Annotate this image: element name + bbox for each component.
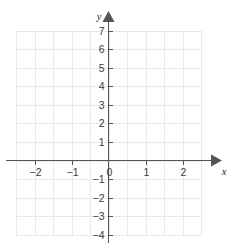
origin-label: 0 xyxy=(107,166,113,178)
y-tick-label: 5 xyxy=(99,62,105,74)
y-tick-label: 7 xyxy=(99,25,105,37)
y-tick-label: 1 xyxy=(99,136,105,148)
axes xyxy=(6,11,222,243)
x-tick-label: 1 xyxy=(144,166,150,178)
y-tick-label: 3 xyxy=(99,99,105,111)
x-tick-label: −2 xyxy=(30,166,42,178)
y-axis-arrowhead xyxy=(103,11,115,22)
graph-svg: −2−10127654321−1−2−3−4 x y xyxy=(0,0,231,245)
x-tick-label: −1 xyxy=(67,166,79,178)
y-axis-label: y xyxy=(96,11,102,22)
y-tick-label: −3 xyxy=(93,210,105,222)
y-tick-label: 2 xyxy=(99,117,105,129)
y-tick-label: −4 xyxy=(93,229,105,241)
y-tick-label: 4 xyxy=(99,80,105,92)
x-tick-label: 2 xyxy=(181,166,187,178)
y-tick-label: −2 xyxy=(93,192,105,204)
x-axis-arrowhead xyxy=(211,155,222,167)
x-axis-label: x xyxy=(221,166,227,177)
y-tick-label: −1 xyxy=(93,173,105,185)
coordinate-plane-figure: −2−10127654321−1−2−3−4 x y xyxy=(0,0,231,245)
y-tick-label: 6 xyxy=(99,43,105,55)
